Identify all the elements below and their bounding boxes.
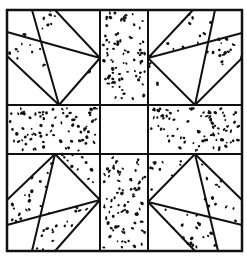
speckle-dot bbox=[10, 218, 14, 222]
speckle-dot bbox=[17, 50, 20, 53]
corner-line-top-left bbox=[32, 10, 59, 105]
speckle-dot bbox=[20, 107, 22, 111]
corner-line-bottom-right bbox=[148, 202, 195, 251]
speckle-dot bbox=[217, 132, 219, 135]
speckle-dot bbox=[122, 52, 125, 55]
speckle-dot bbox=[139, 59, 144, 64]
speckle-dot bbox=[113, 11, 117, 15]
speckle-dot bbox=[120, 245, 123, 249]
speckle-dot bbox=[28, 193, 31, 197]
speckle-dot bbox=[26, 133, 29, 135]
speckle-dot bbox=[172, 118, 176, 121]
speckle-dot bbox=[215, 184, 219, 186]
corner-line-top-right bbox=[148, 33, 242, 58]
speckle-dot bbox=[202, 111, 206, 115]
speckle-dot bbox=[38, 111, 42, 114]
speckle-dot bbox=[222, 111, 225, 114]
speckle-dot bbox=[236, 139, 240, 142]
speckle-dot bbox=[39, 115, 42, 118]
speckle-dot bbox=[121, 240, 124, 243]
speckle-dot bbox=[35, 247, 38, 250]
speckle-dot bbox=[45, 227, 50, 231]
speckle-dot bbox=[126, 50, 129, 53]
speckle-dot bbox=[86, 130, 90, 134]
speckle-dot bbox=[112, 166, 116, 170]
speckle-dot bbox=[11, 128, 14, 131]
speckle-dot bbox=[116, 192, 119, 194]
speckle-dot bbox=[119, 191, 124, 196]
speckle-dot bbox=[189, 236, 194, 241]
speckle-dot bbox=[116, 240, 119, 243]
speckle-dot bbox=[108, 15, 113, 20]
speckle-dot bbox=[41, 113, 44, 116]
speckle-dot bbox=[117, 204, 120, 207]
speckle-dot bbox=[49, 129, 53, 133]
speckle-dot bbox=[51, 239, 55, 242]
speckle-dot bbox=[85, 135, 90, 140]
speckle-dot bbox=[104, 34, 107, 37]
speckle-dot bbox=[131, 13, 134, 16]
speckle-dot bbox=[123, 204, 126, 208]
speckle-dot bbox=[122, 92, 126, 95]
speckle-dot bbox=[200, 115, 203, 118]
speckle-dot bbox=[165, 109, 169, 112]
speckle-dot bbox=[123, 49, 127, 52]
speckle-dot bbox=[156, 116, 158, 119]
speckle-dot bbox=[149, 127, 153, 131]
speckle-dot bbox=[113, 196, 116, 199]
speckle-dot bbox=[137, 78, 140, 81]
speckle-dot bbox=[122, 228, 125, 231]
speckle-dot bbox=[179, 146, 182, 149]
speckle-dot bbox=[127, 201, 130, 203]
speckle-dot bbox=[84, 161, 88, 165]
speckle-dot bbox=[28, 116, 32, 120]
speckle-dot bbox=[131, 97, 135, 101]
speckle-dot bbox=[157, 124, 160, 127]
speckle-dot bbox=[74, 210, 78, 213]
speckle-dot bbox=[207, 111, 211, 114]
speckle-dot bbox=[108, 210, 110, 213]
speckle-dot bbox=[77, 149, 80, 151]
speckle-dot bbox=[234, 219, 237, 222]
speckle-dot bbox=[70, 123, 75, 128]
speckle-dot bbox=[51, 107, 55, 111]
speckle-dot bbox=[111, 86, 114, 88]
speckle-dot bbox=[111, 214, 115, 218]
speckle-dot bbox=[236, 124, 241, 128]
speckle-dot bbox=[163, 128, 166, 130]
speckle-dot bbox=[114, 96, 117, 100]
speckle-dot bbox=[192, 142, 195, 145]
speckle-dot bbox=[203, 135, 206, 138]
speckle-dot bbox=[94, 134, 97, 136]
speckle-dot bbox=[215, 139, 217, 142]
speckle-dot bbox=[24, 143, 27, 146]
speckle-dot bbox=[60, 121, 62, 125]
speckle-dot bbox=[158, 168, 161, 171]
speckle-dot bbox=[8, 51, 11, 55]
speckle-dot bbox=[76, 125, 80, 129]
corner-line-top-right bbox=[148, 58, 195, 105]
speckle-dot bbox=[202, 236, 205, 239]
corner-line-bottom-right bbox=[148, 202, 242, 225]
speckle-dot bbox=[139, 43, 142, 45]
speckle-dot bbox=[165, 114, 168, 118]
speckle-dot bbox=[186, 213, 189, 216]
speckle-dot bbox=[42, 117, 45, 121]
speckle-dot bbox=[106, 221, 110, 225]
speckle-dot bbox=[232, 207, 235, 210]
corner-line-top-right bbox=[195, 58, 242, 105]
speckle-dot bbox=[46, 23, 51, 27]
corner-line-top-right bbox=[148, 10, 193, 58]
speckle-dot bbox=[94, 118, 98, 121]
speckle-dot bbox=[161, 160, 164, 164]
speckle-dot bbox=[17, 112, 20, 115]
speckle-dot bbox=[132, 23, 135, 27]
speckle-dot bbox=[180, 136, 182, 139]
speckle-dot bbox=[121, 189, 124, 192]
speckle-dot bbox=[105, 23, 109, 27]
speckle-dot bbox=[101, 43, 105, 46]
speckle-dot bbox=[166, 42, 169, 45]
quilt-block-diagram bbox=[0, 0, 247, 262]
speckle-dot bbox=[207, 234, 210, 237]
speckle-dot bbox=[229, 48, 232, 51]
